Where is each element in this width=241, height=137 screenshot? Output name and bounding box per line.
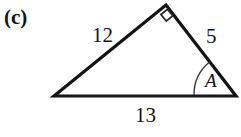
figure-container: (c) 12 5 13 A: [0, 0, 241, 137]
side-length-label-bottom: 13: [135, 105, 156, 126]
triangle-diagram: [0, 0, 241, 137]
side-length-label-right: 5: [206, 26, 217, 47]
part-label: (c): [4, 7, 27, 28]
side-length-label-left: 12: [92, 25, 113, 46]
angle-label-a: A: [205, 71, 217, 90]
